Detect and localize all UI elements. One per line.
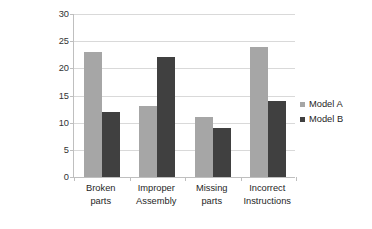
bars-layer bbox=[74, 14, 295, 177]
x-category-label-2: Missingparts bbox=[184, 182, 240, 209]
legend-swatch-icon bbox=[300, 102, 305, 107]
y-tick-label-30: 30 bbox=[59, 9, 69, 19]
x-category-label-line-2: Instructions bbox=[240, 195, 296, 208]
legend-swatch-icon bbox=[300, 117, 305, 122]
bar-model-b-3 bbox=[268, 101, 286, 177]
x-axis-category-labels: BrokenpartsImproperAssemblyMissingpartsI… bbox=[73, 182, 295, 224]
y-tick-label-15: 15 bbox=[59, 91, 69, 101]
x-tickmark-2 bbox=[241, 177, 242, 181]
x-category-label-line-1: Improper bbox=[129, 182, 185, 195]
x-category-label-line-2: parts bbox=[184, 195, 240, 208]
bar-chart: Number of Customer Complaints June - Dec… bbox=[0, 0, 372, 229]
x-category-label-line-1: Incorrect bbox=[240, 182, 296, 195]
y-tick-label-20: 20 bbox=[59, 63, 69, 73]
bar-model-b-2 bbox=[213, 128, 231, 177]
bar-model-a-0 bbox=[84, 52, 102, 177]
legend-entry-model-a: Model A bbox=[300, 99, 343, 109]
y-axis-tick-labels: 051015202530 bbox=[46, 8, 72, 183]
legend-label: Model B bbox=[309, 114, 343, 124]
chart-legend: Model AModel B bbox=[300, 99, 343, 124]
y-tick-label-0: 0 bbox=[64, 172, 69, 182]
x-category-label-line-1: Broken bbox=[73, 182, 129, 195]
y-tick-label-5: 5 bbox=[64, 145, 69, 155]
x-tickmark-0 bbox=[130, 177, 131, 181]
x-tickmark-1 bbox=[185, 177, 186, 181]
x-category-label-0: Brokenparts bbox=[73, 182, 129, 209]
bar-model-a-1 bbox=[139, 106, 157, 177]
x-category-label-line-2: Assembly bbox=[129, 195, 185, 208]
y-tick-label-10: 10 bbox=[59, 118, 69, 128]
bar-model-a-2 bbox=[195, 117, 213, 177]
bar-model-b-0 bbox=[102, 112, 120, 177]
legend-entry-model-b: Model B bbox=[300, 114, 343, 124]
x-category-label-line-2: parts bbox=[73, 195, 129, 208]
x-category-label-1: ImproperAssembly bbox=[129, 182, 185, 209]
x-category-label-line-1: Missing bbox=[184, 182, 240, 195]
y-tick-label-25: 25 bbox=[59, 36, 69, 46]
legend-label: Model A bbox=[309, 99, 343, 109]
plot-area bbox=[73, 14, 295, 177]
x-tickmark-3 bbox=[296, 177, 297, 181]
bar-model-b-1 bbox=[157, 57, 175, 177]
x-tickmark-origin bbox=[74, 177, 75, 181]
bar-model-a-3 bbox=[250, 47, 268, 177]
x-category-label-3: IncorrectInstructions bbox=[240, 182, 296, 209]
